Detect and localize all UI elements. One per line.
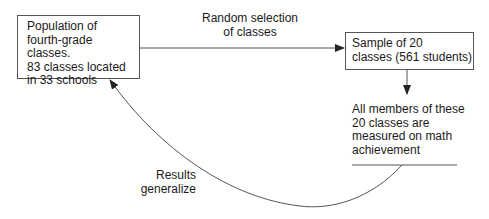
- measurement-note: All members of these 20 classes are meas…: [352, 103, 487, 157]
- sample-box: Sample of 20 classes (561 students): [345, 32, 474, 70]
- population-box: Population of fourth-grade classes. 83 c…: [17, 15, 140, 79]
- random-selection-label: Random selection of classes: [200, 12, 300, 39]
- results-generalize-label: Results generalize: [132, 169, 196, 196]
